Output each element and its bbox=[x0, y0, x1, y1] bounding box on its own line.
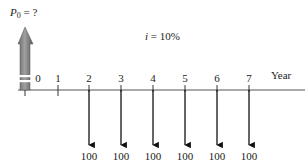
period-label-0: 0 bbox=[35, 73, 41, 84]
cash-flow-amount-5: 100 bbox=[177, 151, 194, 162]
axis-label-year: Year bbox=[271, 70, 291, 81]
period-label-2: 2 bbox=[86, 73, 92, 84]
cash-flow-arrows bbox=[89, 90, 249, 145]
present-value-suffix: = ? bbox=[21, 6, 38, 18]
period-label-1: 1 bbox=[55, 73, 61, 84]
period-label-7: 7 bbox=[246, 73, 252, 84]
present-value-symbol: P bbox=[10, 6, 17, 18]
cash-flow-amount-3: 100 bbox=[113, 151, 130, 162]
cash-flow-amount-2: 100 bbox=[81, 151, 98, 162]
present-value-label: P0 = ? bbox=[10, 7, 37, 21]
interest-rate-label: i = 10% bbox=[145, 31, 180, 42]
cash-flow-amount-7: 100 bbox=[241, 151, 258, 162]
period-label-5: 5 bbox=[182, 73, 188, 84]
period-label-3: 3 bbox=[118, 73, 124, 84]
present-value-up-arrow-icon bbox=[18, 27, 33, 90]
period-label-4: 4 bbox=[150, 73, 156, 84]
period-label-6: 6 bbox=[214, 73, 220, 84]
cash-flow-amount-6: 100 bbox=[209, 151, 226, 162]
interest-rate-value: = 10% bbox=[148, 30, 180, 42]
cash-flow-amount-4: 100 bbox=[145, 151, 162, 162]
